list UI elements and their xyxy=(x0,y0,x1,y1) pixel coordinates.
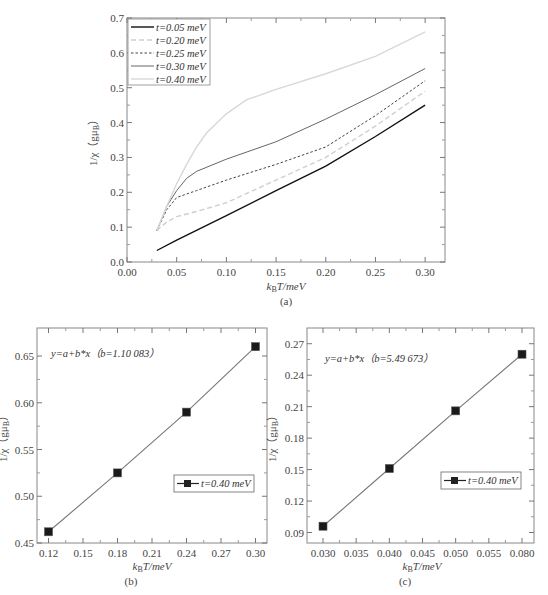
series-line xyxy=(157,105,425,250)
legend-entry: t=0.40 meV xyxy=(156,74,207,85)
square-marker-icon xyxy=(184,480,191,487)
series-line xyxy=(157,69,425,231)
y-tick-label: 0.21 xyxy=(285,401,304,413)
y-tick-label: 0.60 xyxy=(15,397,35,409)
legend-entry: t=0.30 meV xyxy=(156,61,207,72)
x-tick-label: 0.20 xyxy=(316,266,336,278)
data-point-marker xyxy=(452,407,460,415)
y-tick-label: 0.7 xyxy=(110,12,124,24)
series-lines-b xyxy=(45,343,260,536)
plot-frame-b xyxy=(37,328,267,543)
y-tick-label: 0.12 xyxy=(285,495,304,507)
svg-text:t=0.40 meV: t=0.40 meV xyxy=(201,478,252,489)
y-tick-label: 0.1 xyxy=(110,221,124,233)
data-point-marker xyxy=(45,528,53,536)
chart-b: 0.120.150.180.210.240.270.300.450.500.55… xyxy=(0,328,267,588)
y-tick-label: 0.27 xyxy=(285,338,305,350)
series-line xyxy=(49,347,256,532)
data-point-marker xyxy=(183,408,191,416)
series-lines-c xyxy=(319,350,526,530)
x-tick-label: 0.10 xyxy=(217,266,237,278)
x-axis-label-a: kBT/meV xyxy=(267,280,307,294)
chart-c: 0.0300.0350.0400.0450.0500.0550.0800.090… xyxy=(266,328,535,588)
x-tick-label: 0.045 xyxy=(410,547,435,559)
y-tick-label: 0.3 xyxy=(110,151,124,163)
legend-entry: t=0.05 meV xyxy=(156,22,207,33)
x-tick-label: 0.035 xyxy=(344,547,369,559)
y-tick-label: 0.4 xyxy=(110,117,124,129)
panel-label-c: (c) xyxy=(399,575,412,588)
x-tick-label: 0.30 xyxy=(246,547,266,559)
x-axis-label-b: kBT/meV xyxy=(133,560,173,574)
series-line xyxy=(157,91,425,230)
figure: 0.000.050.100.150.200.250.300.00.10.20.3… xyxy=(0,0,548,595)
y-tick-label: 0.5 xyxy=(110,82,124,94)
x-tick-label: 0.24 xyxy=(177,547,197,559)
panel-label-b: (b) xyxy=(125,575,138,588)
square-marker-icon xyxy=(451,477,458,484)
y-tick-label: 0.6 xyxy=(110,47,124,59)
x-tick-label: 0.05 xyxy=(167,266,187,278)
x-tick-label: 0.25 xyxy=(366,266,386,278)
y-tick-label: 0.15 xyxy=(285,464,305,476)
y-tick-label: 0.50 xyxy=(15,490,35,502)
x-tick-label: 0.15 xyxy=(73,547,93,559)
fit-annotation-b: y=a+b*x（b=1.10 083） xyxy=(50,348,159,359)
series-line xyxy=(157,81,425,231)
y-tick-label: 0.55 xyxy=(15,444,35,456)
x-tick-label: 0.055 xyxy=(476,547,501,559)
legend-entry: t=0.20 meV xyxy=(156,35,207,46)
data-point-marker xyxy=(385,465,393,473)
x-tick-label: 0.15 xyxy=(266,266,286,278)
legend-c: t=0.40 meV xyxy=(441,472,521,489)
y-tick-label: 0.65 xyxy=(15,350,35,362)
x-tick-label: 0.040 xyxy=(377,547,402,559)
y-tick-label: 0.09 xyxy=(285,527,305,539)
series-line xyxy=(323,354,522,526)
legend-entry: t=0.25 meV xyxy=(156,48,207,59)
y-tick-label: 0.24 xyxy=(285,369,305,381)
x-axis-label-c: kBT/meV xyxy=(403,560,443,574)
x-tick-label: 0.030 xyxy=(311,547,336,559)
y-tick-label: 0.45 xyxy=(15,537,35,549)
x-tick-label: 0.27 xyxy=(211,547,231,559)
data-point-marker xyxy=(252,343,260,351)
axis-ticks-b: 0.120.150.180.210.240.270.300.450.500.55… xyxy=(15,328,267,559)
y-axis-label-b: 1/χ（gμB） xyxy=(0,410,11,462)
panel-label-a: (a) xyxy=(280,295,293,308)
chart-a: 0.000.050.100.150.200.250.300.00.10.20.3… xyxy=(87,12,445,308)
x-tick-label: 0.21 xyxy=(142,547,161,559)
legend-b: t=0.40 meV xyxy=(174,475,254,492)
x-tick-label: 0.12 xyxy=(39,547,58,559)
y-tick-label: 0.0 xyxy=(110,256,124,268)
data-point-marker xyxy=(114,469,122,477)
x-tick-label: 0.18 xyxy=(108,547,128,559)
data-point-marker xyxy=(319,522,327,530)
legend-a: t=0.05 meVt=0.20 meVt=0.25 meVt=0.30 meV… xyxy=(128,19,210,85)
x-tick-label: 0.050 xyxy=(443,547,468,559)
y-axis-label-a: 1/χ（gμB） xyxy=(87,114,101,166)
y-tick-label: 0.2 xyxy=(110,186,124,198)
y-tick-label: 0.18 xyxy=(285,432,305,444)
svg-text:t=0.40 meV: t=0.40 meV xyxy=(468,475,519,486)
data-point-marker xyxy=(518,350,526,358)
y-axis-label-c: 1/χ（gμB） xyxy=(266,410,280,462)
x-tick-label: 0.30 xyxy=(416,266,436,278)
x-tick-label: 0.080 xyxy=(510,547,535,559)
fit-annotation-c: y=a+b*x（b=5.49 673） xyxy=(324,353,433,364)
